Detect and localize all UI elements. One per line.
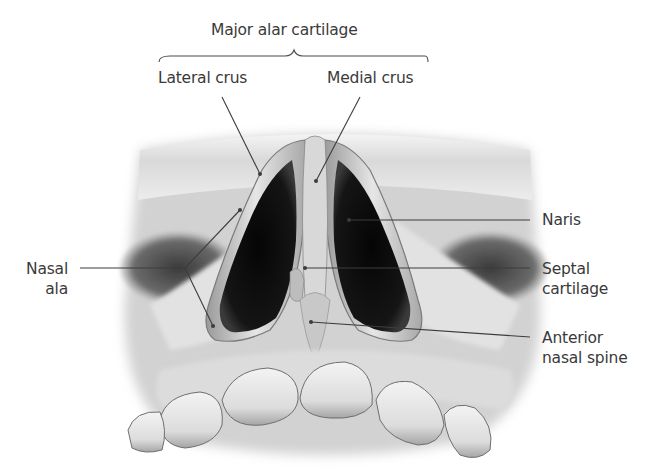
label-naris: Naris xyxy=(542,210,581,230)
anatomy-figure: Major alar cartilage Lateral crus Medial… xyxy=(0,0,663,471)
label-lateral-crus: Lateral crus xyxy=(158,68,247,88)
label-septal-cartilage: Septal cartilage xyxy=(542,259,608,299)
label-line: Anterior xyxy=(542,328,628,348)
label-nasal-ala: Nasal ala xyxy=(22,259,68,299)
label-line: nasal spine xyxy=(542,348,628,368)
label-line: ala xyxy=(22,279,68,299)
label-anterior-nasal-spine: Anterior nasal spine xyxy=(542,328,628,368)
label-major-alar-cartilage: Major alar cartilage xyxy=(211,20,358,40)
label-line: Nasal xyxy=(22,259,68,279)
label-line: Septal xyxy=(542,259,608,279)
label-medial-crus: Medial crus xyxy=(327,68,413,88)
major-alar-cartilage-brace xyxy=(159,50,428,62)
label-line: cartilage xyxy=(542,279,608,299)
